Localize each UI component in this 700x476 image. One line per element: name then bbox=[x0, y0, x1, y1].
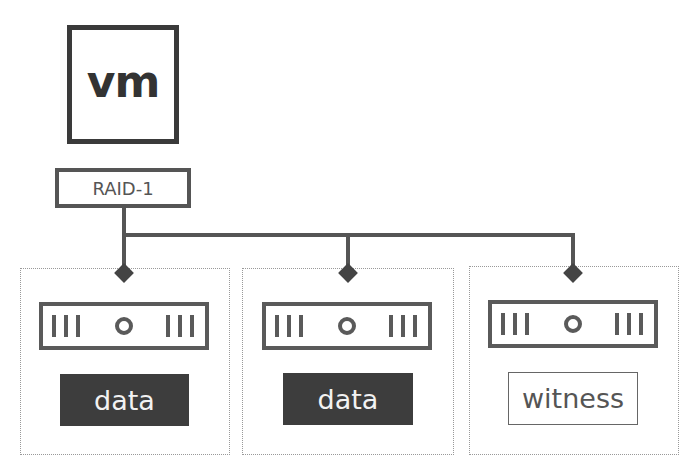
host-box-1 bbox=[20, 268, 230, 455]
component-text: witness bbox=[522, 383, 624, 414]
disk-drive-icon bbox=[262, 302, 432, 350]
witness-component-label: witness bbox=[508, 372, 638, 425]
host-box-2 bbox=[242, 268, 454, 455]
raid-node: RAID-1 bbox=[55, 168, 191, 208]
vm-label: vm bbox=[87, 56, 160, 107]
disk-drive-icon bbox=[39, 302, 209, 350]
host-box-3 bbox=[469, 266, 679, 455]
vm-node: vm bbox=[67, 25, 179, 144]
component-text: data bbox=[318, 384, 379, 415]
component-text: data bbox=[94, 385, 155, 416]
disk-drive-icon bbox=[488, 300, 658, 348]
connector-raid-vertical bbox=[122, 207, 126, 271]
data-component-label: data bbox=[283, 373, 413, 425]
data-component-label: data bbox=[60, 374, 189, 426]
raid-label: RAID-1 bbox=[92, 178, 153, 199]
